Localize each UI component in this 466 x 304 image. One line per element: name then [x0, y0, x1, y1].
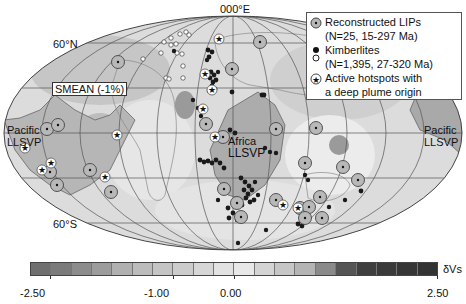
svg-text:★: ★ [279, 200, 287, 210]
colorbar-segment [275, 263, 295, 275]
pacific-llsvp-right-label: Pacific LLSVP [424, 124, 458, 148]
svg-text:★: ★ [101, 172, 109, 182]
colorbar-segment [194, 263, 214, 275]
colorbar-segment [72, 263, 92, 275]
colorbar-segment [51, 263, 71, 275]
svg-text:★: ★ [294, 203, 302, 213]
svg-text:★: ★ [211, 132, 219, 142]
colorbar-label: δVs [443, 263, 462, 275]
legend-lips-detail: (N=25, 15-297 Ma) [325, 30, 418, 43]
colorbar-segment [234, 263, 254, 275]
central-meridian-label: 000°E [220, 3, 250, 15]
svg-text:★: ★ [199, 104, 207, 114]
legend-kimberlites-label: Kimberlites [325, 44, 379, 57]
legend-kimberlites-detail: (N=1,395, 27-320 Ma) [325, 58, 433, 71]
colorbar-segment [255, 263, 275, 275]
colorbar-segment [153, 263, 173, 275]
pacific-llsvp-left-label: Pacific LLSVP [7, 124, 41, 148]
africa-llsvp-label: Africa LLSVP [228, 135, 265, 159]
svg-text:★: ★ [47, 158, 55, 168]
colorbar-segment [173, 263, 193, 275]
colorbar-segment [316, 263, 336, 275]
colorbar-segment [112, 263, 132, 275]
model-label: SMEAN (-1%) [52, 82, 127, 96]
colorbar [30, 262, 438, 276]
svg-text:★: ★ [38, 165, 46, 175]
colorbar-segment [418, 263, 437, 275]
colorbar-segment [92, 263, 112, 275]
kimberlite-symbol-icon [311, 46, 321, 62]
svg-text:★: ★ [215, 34, 223, 44]
colorbar-tick-zero: 0.00 [220, 287, 241, 299]
colorbar-tick-minus1: -1.00 [144, 287, 169, 299]
lat-60n-label: 60°N [53, 38, 78, 50]
colorbar-tick-min: -2.50 [20, 287, 45, 299]
colorbar-segment [133, 263, 153, 275]
svg-text:★: ★ [208, 85, 216, 95]
lip-symbol-icon [310, 17, 322, 29]
svg-text:★: ★ [312, 75, 320, 85]
svg-text:★: ★ [113, 130, 121, 140]
legend-lips-label: Reconstructed LIPs [325, 16, 421, 29]
colorbar-segment [397, 263, 417, 275]
lat-60s-label: 60°S [53, 218, 77, 230]
colorbar-segment [357, 263, 377, 275]
colorbar-segment [377, 263, 397, 275]
colorbar-segment [214, 263, 234, 275]
colorbar-segment [31, 263, 51, 275]
colorbar-segment [295, 263, 315, 275]
svg-text:★: ★ [201, 69, 209, 79]
colorbar-segment [336, 263, 356, 275]
legend: Reconstructed LIPs (N=25, 15-297 Ma) Kim… [306, 12, 462, 100]
legend-hotspots-detail: a deep plume origin [325, 86, 422, 99]
hotspot-symbol-icon: ★ [310, 73, 322, 85]
legend-hotspots-label: Active hotspots with [325, 72, 422, 85]
colorbar-tick-max: 2.50 [427, 287, 448, 299]
